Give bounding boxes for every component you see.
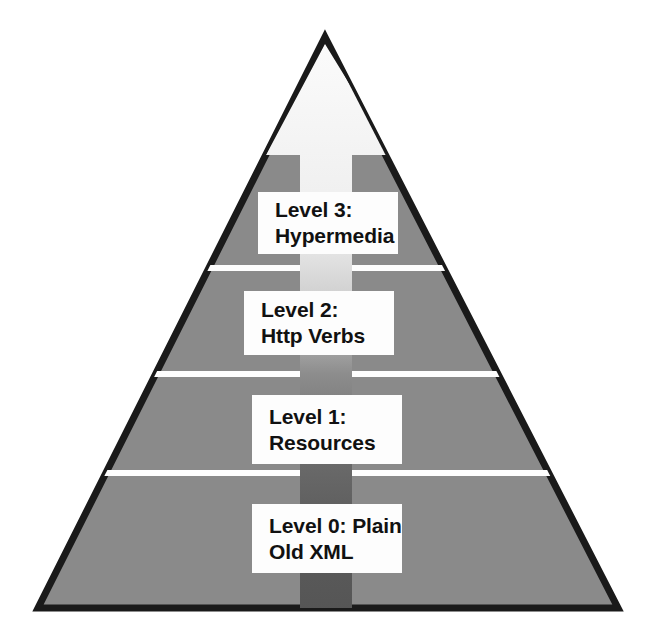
level-0-line-2: Old XML xyxy=(269,539,394,565)
level-0-line-1: Level 0: Plain xyxy=(269,513,394,539)
level-box-resources[interactable]: Level 1: Resources xyxy=(252,395,402,464)
level-1-line-1: Level 1: xyxy=(269,404,394,430)
level-box-hypermedia[interactable]: Level 3: Hypermedia xyxy=(258,192,398,254)
pyramid-diagram: Level 3: Hypermedia Level 2: Http Verbs … xyxy=(0,0,654,642)
level-box-http-verbs[interactable]: Level 2: Http Verbs xyxy=(244,291,394,355)
level-3-line-1: Level 3: xyxy=(275,197,390,223)
level-box-plain-old-xml[interactable]: Level 0: Plain Old XML xyxy=(252,504,402,573)
level-3-line-2: Hypermedia xyxy=(275,223,390,249)
level-2-line-1: Level 2: xyxy=(261,297,386,323)
level-2-line-2: Http Verbs xyxy=(261,323,386,349)
level-1-line-2: Resources xyxy=(269,430,394,456)
